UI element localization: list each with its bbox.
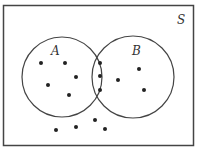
point-a-only: [46, 83, 50, 87]
point-outside: [54, 128, 58, 132]
point-a-only: [39, 61, 43, 65]
point-a-and-b: [98, 74, 102, 78]
point-a-and-b: [98, 88, 102, 92]
point-a-only: [63, 61, 67, 65]
set-a-label: A: [50, 44, 60, 58]
point-a-and-b: [98, 61, 102, 65]
point-b-only: [137, 67, 141, 71]
venn-diagram: S A B: [0, 0, 197, 149]
universe-label: S: [177, 13, 185, 27]
set-b-label: B: [131, 44, 141, 58]
point-b-only: [116, 78, 120, 82]
point-outside: [103, 127, 107, 131]
point-a-only: [74, 75, 78, 79]
point-outside: [93, 118, 97, 122]
point-a-only: [67, 93, 71, 97]
point-outside: [74, 125, 78, 129]
point-b-only: [142, 88, 146, 92]
